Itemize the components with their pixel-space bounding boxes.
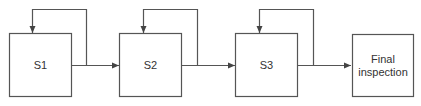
process-flow-diagram: S1 S2 S3 Final inspection bbox=[0, 0, 421, 106]
node-s3-label: S3 bbox=[260, 59, 273, 71]
node-s2: S2 bbox=[120, 34, 182, 97]
node-s2-label: S2 bbox=[144, 59, 157, 71]
node-final-label-line1: Final bbox=[371, 53, 395, 65]
node-s3: S3 bbox=[236, 34, 298, 97]
node-s1-label: S1 bbox=[34, 59, 47, 71]
node-final-label-line2: inspection bbox=[358, 66, 408, 78]
node-final-inspection: Final inspection bbox=[353, 35, 414, 97]
node-s1: S1 bbox=[10, 34, 72, 97]
